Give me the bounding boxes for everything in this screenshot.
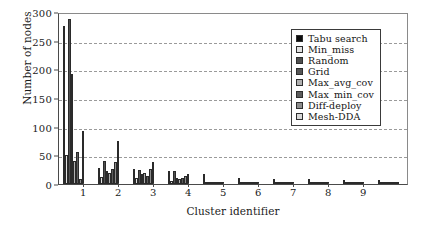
x-tick-mark xyxy=(363,183,364,187)
legend-item[interactable]: Max_min_cov xyxy=(296,88,374,99)
x-tick-mark xyxy=(328,183,329,187)
x-tick-mark xyxy=(83,183,84,187)
x-tick-mark xyxy=(118,183,119,187)
legend-item[interactable]: Tabu search xyxy=(296,33,374,44)
chart-legend: Tabu searchMin_missRandomGridMax_avg_cov… xyxy=(291,29,381,126)
legend-item-label: Random xyxy=(308,55,349,66)
y-tick-label: 100 xyxy=(24,122,52,133)
bar-group xyxy=(98,14,120,184)
legend-swatch-icon xyxy=(296,46,303,53)
x-tick-label: 2 xyxy=(115,187,122,198)
y-tick-label: 0 xyxy=(24,180,52,191)
x-axis-title: Cluster identifier xyxy=(58,205,408,217)
legend-item-label: Mesh-DDA xyxy=(308,111,360,122)
legend-swatch-icon xyxy=(296,57,303,64)
x-tick-label: 5 xyxy=(220,187,227,198)
x-tick-mark xyxy=(223,183,224,187)
legend-item[interactable]: Mesh-DDA xyxy=(296,111,374,122)
bar xyxy=(397,182,400,184)
legend-item-label: Diff-deploy xyxy=(308,100,362,111)
y-tick-label: 50 xyxy=(24,151,52,162)
y-tick-label: 300 xyxy=(24,8,52,19)
legend-item-label: Grid xyxy=(308,66,330,77)
legend-item-label: Max_avg_cov xyxy=(308,77,373,88)
legend-item-label: Tabu search xyxy=(308,33,368,44)
legend-swatch-icon xyxy=(296,113,303,120)
legend-item[interactable]: Random xyxy=(296,55,374,66)
bar xyxy=(82,131,85,184)
bar xyxy=(152,162,155,184)
legend-item[interactable]: Grid xyxy=(296,66,374,77)
x-tick-label: 8 xyxy=(325,187,332,198)
legend-item[interactable]: Min_miss xyxy=(296,44,374,55)
x-tick-mark xyxy=(293,183,294,187)
x-tick-label: 3 xyxy=(150,187,157,198)
x-tick-label: 4 xyxy=(185,187,192,198)
x-tick-mark xyxy=(153,183,154,187)
bar-group xyxy=(203,14,225,184)
legend-item[interactable]: Diff-deploy xyxy=(296,100,374,111)
bar-group xyxy=(238,14,260,184)
legend-item[interactable]: Max_avg_cov xyxy=(296,77,374,88)
legend-swatch-icon xyxy=(296,68,303,75)
legend-swatch-icon xyxy=(296,91,303,98)
x-tick-mark xyxy=(188,183,189,187)
bar-chart-figure: Number of nodes 050100150200250300 12345… xyxy=(0,0,428,237)
x-axis-tick-labels: 123456789 xyxy=(58,187,408,203)
legend-item-label: Max_min_cov xyxy=(308,89,374,100)
y-tick-label: 200 xyxy=(24,65,52,76)
legend-swatch-icon xyxy=(296,79,303,86)
x-tick-label: 7 xyxy=(290,187,297,198)
y-axis-tick-labels: 050100150200250300 xyxy=(24,13,52,185)
legend-swatch-icon xyxy=(296,35,303,42)
bar-group xyxy=(378,14,400,184)
bar-group xyxy=(63,14,85,184)
x-tick-label: 1 xyxy=(80,187,87,198)
y-tick-label: 250 xyxy=(24,36,52,47)
bar-group xyxy=(168,14,190,184)
legend-swatch-icon xyxy=(296,102,303,109)
y-tick-label: 150 xyxy=(24,94,52,105)
legend-item-label: Min_miss xyxy=(308,44,354,55)
bar xyxy=(117,141,120,184)
bar-group xyxy=(133,14,155,184)
x-tick-label: 6 xyxy=(255,187,262,198)
x-tick-label: 9 xyxy=(360,187,367,198)
x-tick-mark xyxy=(258,183,259,187)
